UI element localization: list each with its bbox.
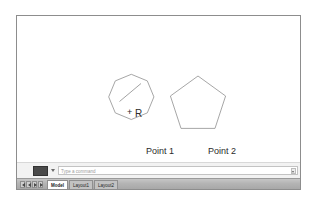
scroll-down-arrow-icon[interactable]	[291, 168, 296, 174]
radius-label: R	[135, 108, 142, 119]
point-2-label: Point 2	[208, 146, 236, 156]
center-cross-icon: +	[127, 107, 132, 117]
tab-layout1[interactable]: Layout1	[69, 180, 93, 189]
canvas-vector-layer	[17, 16, 300, 162]
application-root: + R Point 1 Point 2 Type a command Model…	[0, 0, 316, 202]
tab-layout2[interactable]: Layout2	[94, 180, 118, 189]
drawing-canvas[interactable]: + R Point 1 Point 2	[17, 16, 300, 162]
command-history-button[interactable]	[33, 166, 48, 176]
command-bar: Type a command	[17, 162, 300, 178]
point-1-label: Point 1	[146, 146, 174, 156]
tab-model[interactable]: Model	[47, 180, 68, 189]
previous-layout-button[interactable]	[26, 181, 31, 188]
layout-tab-bar: Model Layout1 Layout2	[17, 178, 300, 189]
first-layout-button[interactable]	[20, 181, 25, 188]
radius-leader-line	[120, 84, 142, 102]
last-layout-button[interactable]	[38, 181, 43, 188]
chevron-down-icon[interactable]	[50, 167, 56, 174]
pentagon-shape	[170, 76, 225, 128]
cad-application-window: + R Point 1 Point 2 Type a command Model…	[16, 15, 301, 190]
layout-nav-buttons	[20, 181, 44, 188]
next-layout-button[interactable]	[32, 181, 37, 188]
command-input[interactable]: Type a command	[58, 166, 298, 175]
